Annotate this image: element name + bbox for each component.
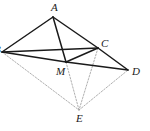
segment-CE [79,48,98,110]
vertex-label-c: C [101,38,108,49]
segment-AC [53,17,98,48]
vertex-label-m: M [56,66,65,77]
vertex-label-b: B [0,44,1,55]
solid-edge-group [2,17,128,70]
segment-MC [66,48,98,62]
segment-BC [2,48,98,52]
segment-BM [2,52,66,62]
segment-AB [2,17,53,52]
vertex-label-a: A [51,2,58,13]
segment-ME [66,62,79,110]
vertex-label-d: D [132,66,140,77]
vertex-label-e: E [76,113,83,124]
figure-canvas [0,0,150,131]
segment-ED [79,70,128,110]
geometry-figure: A B C D M E [0,0,150,131]
